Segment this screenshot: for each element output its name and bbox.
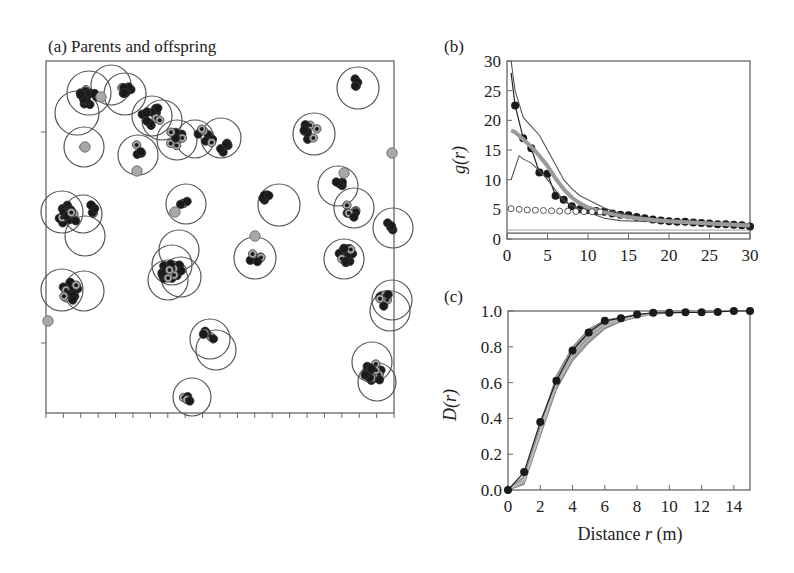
offspring-core: [166, 276, 170, 280]
offspring-point: [77, 90, 85, 98]
observed-point: [730, 307, 738, 315]
y-tick-label: 0.2: [481, 445, 502, 464]
open-point: [524, 207, 530, 213]
offspring-point: [137, 148, 145, 156]
open-point: [581, 209, 587, 215]
offspring-point: [142, 109, 150, 117]
x-tick-label: 14: [725, 497, 743, 516]
offspring-core: [74, 283, 78, 287]
y-tick-label: 0.4: [481, 409, 503, 428]
parent-point: [250, 231, 260, 241]
offspring-core: [180, 136, 184, 140]
cluster-circle: [258, 184, 300, 226]
x-tick-label: 12: [693, 497, 710, 516]
offspring-point: [265, 191, 273, 199]
open-point: [557, 208, 563, 214]
parent-point: [387, 148, 397, 158]
observed-point: [552, 377, 560, 385]
offspring-point: [342, 257, 350, 265]
x-tick-label: 30: [742, 246, 759, 265]
offspring-point: [154, 104, 162, 112]
panel-a-title: (a) Parents and offspring: [48, 37, 217, 56]
open-point: [565, 208, 571, 214]
offspring-core: [169, 141, 173, 145]
simulation-band: [508, 311, 750, 490]
figure: (a) Parents and offspring (b) 0510152025…: [0, 0, 794, 573]
x-tick-label: 4: [568, 497, 577, 516]
x-tick-label: 25: [701, 246, 718, 265]
x-tick-label: 10: [580, 246, 597, 265]
panel-b-pair-correlation: (b) 051015202530051015202530 g(r): [444, 37, 759, 265]
panel-c-frame: [508, 311, 750, 490]
parent-point: [132, 166, 142, 176]
y-tick-label: 15: [484, 141, 501, 160]
offspring-point: [340, 244, 348, 252]
offspring-core: [158, 118, 162, 122]
panel-b-series: [507, 61, 754, 233]
offspring-point: [222, 140, 230, 148]
panel-b-ylabel: g(r): [449, 146, 470, 174]
parent-point: [80, 142, 90, 152]
offspring-point: [384, 290, 392, 298]
offspring-point: [350, 213, 358, 221]
parent-point: [96, 92, 106, 102]
offspring-core: [378, 297, 382, 301]
offspring-core: [349, 248, 353, 252]
open-point: [589, 209, 595, 215]
offspring-point: [69, 296, 77, 304]
offspring-core: [169, 130, 173, 134]
observed-point: [535, 169, 543, 177]
parent-point: [339, 168, 349, 178]
observed-point: [552, 192, 560, 200]
offspring-core: [315, 127, 319, 131]
offspring-point: [332, 178, 340, 186]
parent-point: [43, 316, 53, 326]
x-tick-label: 2: [536, 497, 545, 516]
y-tick-label: 5: [493, 200, 502, 219]
x-tick-label: 5: [543, 246, 552, 265]
observed-point: [601, 317, 609, 325]
offspring-point: [387, 222, 395, 230]
offspring-core: [345, 203, 349, 207]
panel-a-spatial-map: (a) Parents and offspring: [41, 37, 413, 418]
observed-point: [511, 102, 519, 110]
offspring-point: [375, 376, 383, 384]
offspring-core: [69, 211, 73, 215]
y-tick-label: 20: [484, 111, 501, 130]
offspring-core: [172, 273, 176, 277]
offspring-core: [251, 252, 255, 256]
panel-c-distance-cdf: (c) 024681012140.00.20.40.60.81.0 D(r) D…: [440, 287, 754, 545]
open-point: [549, 208, 555, 214]
observed-point: [504, 486, 512, 494]
open-point: [540, 208, 546, 214]
observed-point: [746, 307, 754, 315]
observed-point: [585, 328, 593, 336]
observed-point: [569, 346, 577, 354]
observed-point: [536, 418, 544, 426]
simulation-line: [508, 311, 750, 490]
offspring-point: [199, 330, 207, 338]
parent-circles: [41, 65, 413, 416]
panel-b-title: (b): [444, 37, 464, 56]
offspring-point: [143, 117, 151, 125]
panel-c-series: [504, 307, 754, 494]
x-tick-label: 10: [661, 497, 678, 516]
offspring-point: [71, 217, 79, 225]
y-tick-label: 10: [484, 171, 501, 190]
offspring-point: [253, 257, 261, 265]
offspring-point: [367, 365, 375, 373]
x-tick-label: 20: [661, 246, 678, 265]
offspring-point: [351, 82, 359, 90]
x-tick-label: 8: [633, 497, 642, 516]
y-tick-label: 30: [484, 52, 501, 71]
offspring-core: [311, 136, 315, 140]
y-tick-label: 25: [484, 82, 501, 101]
model-line: [511, 130, 750, 225]
simulation-line: [508, 311, 750, 490]
offspring-core: [135, 143, 139, 147]
offspring-core: [168, 268, 172, 272]
panel-a-frame: [46, 61, 394, 413]
envelope-line: [511, 61, 750, 224]
panel-c-xlabel: Distance r (m): [578, 524, 683, 545]
observed-point: [617, 314, 625, 322]
